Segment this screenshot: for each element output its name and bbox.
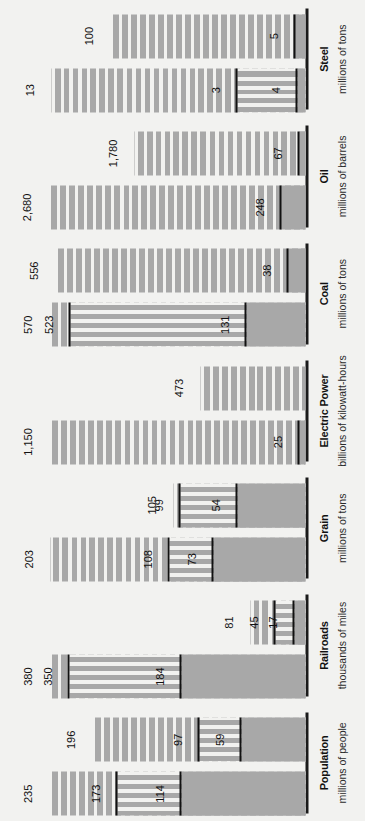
tier-tick [292, 600, 294, 644]
bar-coal-2: 38556 [55, 248, 305, 292]
bar-value-label: 105 [145, 496, 159, 514]
bar-segment [213, 537, 305, 581]
bar-value-label: 2,680 [20, 193, 34, 221]
bar-segment [49, 420, 305, 464]
bar-value-label: 203 [22, 550, 36, 568]
bar-value-label: 248 [253, 198, 267, 216]
category-unit-label: millions of people [335, 704, 347, 821]
bar-value-label: 5 [267, 33, 281, 39]
bar-value-label: 100 [82, 26, 96, 44]
bar-grain-1: 73108203 [50, 537, 305, 581]
bar-segment [181, 771, 305, 815]
bar-population-1: 114173235 [49, 771, 305, 815]
bar-value-label: 570 [21, 315, 35, 333]
bar-value-label: 184 [153, 667, 167, 685]
category-label: Steel [317, 0, 329, 117]
category-label: Population [317, 704, 329, 821]
tier-tick [279, 185, 281, 229]
bar-value-label: 45 [247, 616, 261, 628]
bar-value-label: 3 [209, 87, 223, 93]
bar-coal-1: 131523570 [49, 302, 305, 346]
tier-tick [235, 483, 237, 527]
bar-value-label: 108 [141, 550, 155, 568]
bar-segment [299, 131, 305, 175]
bar-value-label: 473 [172, 378, 186, 396]
bar-railroads-2: 174581 [250, 600, 305, 644]
bar-segment [299, 420, 305, 464]
bar-value-label: 73 [185, 553, 199, 565]
bar-value-label: 173 [89, 784, 103, 802]
bar-value-label: 13 [23, 84, 37, 96]
tier-tick [286, 248, 288, 292]
tier-tick [179, 654, 181, 698]
bar-value-label: 54 [209, 499, 223, 511]
tier-tick [297, 131, 299, 175]
tier-tick [297, 420, 299, 464]
bar-segment [241, 717, 305, 761]
category-unit-label: millions of tons [335, 0, 347, 117]
tier-tick [68, 302, 70, 346]
category-group-electric-power: 251,150473Electric Powerbillions of kilo… [0, 352, 365, 469]
tier-tick [179, 771, 181, 815]
tier-tick [167, 537, 169, 581]
tier-tick [244, 302, 246, 346]
tier-tick [197, 717, 199, 761]
tier-tick [239, 717, 241, 761]
category-label: Railroads [317, 586, 329, 703]
chart-stage: 1141732355997196Populationmillions of pe… [0, 0, 365, 821]
bar-oil-1: 2482,680 [48, 185, 305, 229]
tier-tick [235, 68, 237, 112]
bar-value-label: 97 [171, 733, 185, 745]
bar-steel-1: 4313 [51, 68, 305, 112]
bar-value-label: 17 [266, 616, 280, 628]
bar-value-label: 556 [27, 261, 41, 279]
category-unit-label: millions of barrels [335, 117, 347, 234]
bar-value-label: 67 [271, 147, 285, 159]
bar-oil-2: 671,780 [134, 131, 305, 175]
bar-chart-plot: 1141732355997196Populationmillions of pe… [0, 0, 365, 821]
category-group-coal: 13152357038556Coalmillions of tons [0, 235, 365, 352]
bar-value-label: 523 [42, 315, 56, 333]
bar-value-label: 380 [21, 667, 35, 685]
bar-value-label: 1,780 [106, 139, 120, 167]
category-label: Oil [317, 117, 329, 234]
bar-segment [295, 14, 305, 58]
bar-value-label: 81 [222, 616, 236, 628]
bar-value-label: 59 [213, 733, 227, 745]
bar-segment [294, 600, 305, 644]
category-unit-label: billions of kilowatt-hours [335, 352, 347, 469]
bar-value-label: 196 [64, 730, 78, 748]
category-label: Electric Power [317, 352, 329, 469]
bar-value-label: 38 [260, 264, 274, 276]
bar-segment [200, 366, 305, 410]
bar-value-label: 350 [41, 667, 55, 685]
bar-railroads-1: 184350380 [49, 654, 305, 698]
bar-value-label: 1,150 [21, 428, 35, 456]
bar-value-label: 114 [153, 785, 167, 803]
category-label: Coal [317, 235, 329, 352]
bar-value-label: 235 [21, 784, 35, 802]
category-group-steel: 43135100Steelmillions of tons [0, 0, 365, 117]
bar-segment [281, 185, 305, 229]
tier-tick [211, 537, 213, 581]
bar-segment [181, 654, 305, 698]
bar-grain-2: 5499105 [173, 483, 305, 527]
bar-population-2: 5997196 [92, 717, 305, 761]
tier-tick [67, 654, 69, 698]
category-unit-label: thousands of miles [335, 586, 347, 703]
bar-segment [297, 68, 305, 112]
category-group-oil: 2482,680671,780Oilmillions of barrels [0, 117, 365, 234]
category-label: Grain [317, 469, 329, 586]
category-group-population: 1141732355997196Populationmillions of pe… [0, 704, 365, 821]
bar-value-label: 4 [269, 87, 283, 93]
bar-steel-2: 5100 [110, 14, 305, 58]
category-unit-label: millions of tons [335, 469, 347, 586]
bar-value-label: 131 [218, 315, 232, 333]
tier-tick [293, 14, 295, 58]
bar-segment [237, 483, 305, 527]
category-unit-label: millions of tons [335, 235, 347, 352]
bar-segment [288, 248, 305, 292]
tier-tick [178, 483, 180, 527]
category-group-grain: 731082035499105Grainmillions of tons [0, 469, 365, 586]
tier-tick [295, 68, 297, 112]
